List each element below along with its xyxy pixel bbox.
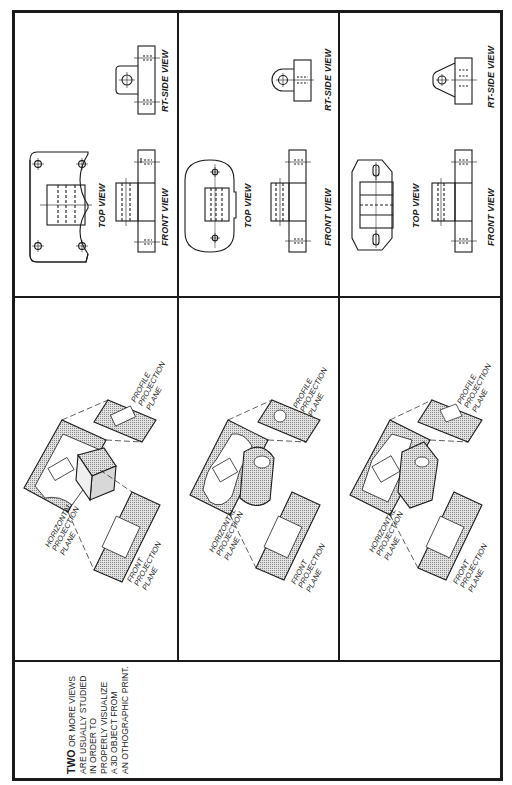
object-1-top-view-label: TOP VIEW — [97, 184, 107, 228]
note-line-2: ARE USUALLY STUDIED — [78, 666, 89, 774]
note-text-block: TWO OR MORE VIEWS ARE USUALLY STUDIED IN… — [66, 666, 131, 774]
note-lead-word: TWO — [65, 750, 77, 775]
object-2-side-view — [272, 60, 314, 101]
object-3-pictorial — [350, 400, 482, 580]
object-2-front-view — [271, 150, 311, 252]
object-1-top-view — [30, 152, 92, 262]
object-2-front-view-label: FRONT VIEW — [323, 189, 333, 247]
object-3-side-view — [433, 58, 477, 104]
object-3-front-view-label: FRONT VIEW — [486, 189, 496, 247]
object-1-side-view-label: RT-SIDE VIEW — [160, 50, 170, 112]
object-2-top-view — [185, 160, 236, 252]
object-2-top-view-label: TOP VIEW — [243, 184, 253, 228]
note-line-5: A 3D OBJECT FROM — [109, 666, 120, 774]
object-3-top-view-label: TOP VIEW — [411, 184, 421, 228]
note-line-6: AN OTHOGRAPHIC PRINT. — [120, 666, 131, 774]
note-line-4: PROPERLY VISUALIZE — [99, 666, 110, 774]
object-3-front-view — [432, 150, 477, 252]
object-1-front-view-label: FRONT VIEW — [160, 189, 170, 247]
object-2-side-view-label: RT-SIDE VIEW — [323, 49, 333, 111]
note-line-1: TWO OR MORE VIEWS — [66, 666, 78, 774]
object-1-side-view — [116, 46, 160, 114]
object-3-top-view — [352, 160, 393, 250]
object-1-front-view — [116, 150, 160, 252]
object-3-side-view-label: RT-SIDE VIEW — [486, 46, 496, 108]
note-line-3: IN ORDER TO — [88, 666, 99, 774]
object-2-pictorial — [190, 400, 320, 580]
